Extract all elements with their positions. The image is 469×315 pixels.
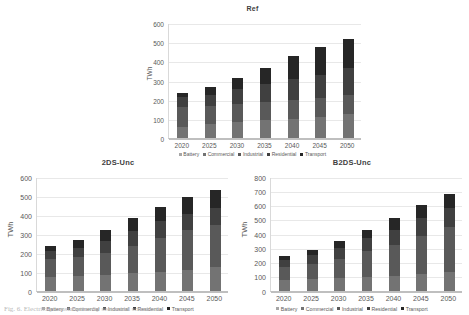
x-axis-tick: 2040 — [146, 295, 173, 302]
legend-label: Commercial — [208, 151, 235, 157]
bar-segment-residential — [315, 75, 326, 98]
y-axis-tick: 300 — [238, 245, 266, 252]
gridline — [271, 292, 462, 293]
bar-segment-residential — [260, 84, 271, 102]
y-axis-tick: 0 — [238, 288, 266, 295]
x-axis-tick: 2045 — [306, 142, 334, 149]
x-axis-tick: 2020 — [270, 295, 297, 302]
stacked-bar[interactable] — [232, 78, 243, 138]
y-axis-tick: 700 — [238, 188, 266, 195]
stacked-bar[interactable] — [307, 250, 318, 291]
stacked-bar[interactable] — [315, 47, 326, 138]
x-axis-tick: 2020 — [168, 142, 196, 149]
stacked-bar[interactable] — [182, 197, 193, 290]
y-axis-tick: 500 — [140, 40, 164, 47]
legend-label: Battery — [183, 151, 199, 157]
bar-segment-industrial — [182, 230, 193, 270]
bar-segment-residential — [128, 231, 139, 247]
legend-swatch-icon — [179, 153, 182, 156]
stacked-bar[interactable] — [155, 207, 166, 290]
y-axis-tick: 300 — [4, 231, 32, 238]
legend-item[interactable]: Residential — [267, 151, 296, 157]
bar-segment-industrial — [389, 245, 400, 275]
bar-segment-industrial — [444, 227, 455, 272]
x-axis-tick: 2050 — [333, 142, 361, 149]
bar-segment-commercial — [100, 275, 111, 291]
stacked-bar[interactable] — [343, 39, 354, 138]
y-axis-tick: 600 — [4, 174, 32, 181]
stacked-bar[interactable] — [45, 246, 56, 290]
stacked-bar[interactable] — [210, 190, 221, 291]
bar-segment-commercial — [232, 122, 243, 138]
x-axis-tick: 2035 — [251, 142, 279, 149]
bar-segment-transport — [232, 78, 243, 89]
y-axis-tick: 400 — [140, 59, 164, 66]
y-axis-tick: 500 — [238, 217, 266, 224]
bar-segment-industrial — [210, 225, 221, 267]
figure-caption: Fig. 6. Electricity consumption by secto… — [4, 305, 464, 313]
bar-segment-residential — [205, 95, 216, 107]
gridline — [37, 216, 228, 217]
chart-panel-2ds-unc: 2DS-Unc TWh 0100200300400500600202020252… — [2, 158, 234, 310]
bar-segment-commercial — [334, 278, 345, 290]
stacked-bar[interactable] — [128, 218, 139, 291]
bar-segment-residential — [416, 218, 427, 236]
legend-item[interactable]: Industrial — [238, 151, 263, 157]
y-axis-tick: 0 — [140, 136, 164, 143]
bar-segment-commercial — [155, 272, 166, 291]
stacked-bar[interactable] — [389, 218, 400, 291]
bar-segment-transport — [128, 218, 139, 231]
chart-panel-b2ds-unc: B2DS-Unc TWh 010020030040050060070080020… — [236, 158, 468, 310]
bar-segment-transport — [155, 207, 166, 220]
y-axis-tick: 200 — [4, 250, 32, 257]
x-axis-tick: 2025 — [297, 295, 324, 302]
bar-segment-industrial — [279, 267, 290, 281]
bar-segment-residential — [444, 208, 455, 227]
bar-segment-residential — [307, 255, 318, 264]
stacked-bar[interactable] — [73, 240, 84, 291]
x-axis-tick: 2040 — [278, 142, 306, 149]
bar-segment-transport — [73, 240, 84, 248]
gridline — [169, 139, 361, 140]
x-axis-tick: 2050 — [435, 295, 462, 302]
stacked-bar[interactable] — [334, 241, 345, 291]
stacked-bar[interactable] — [100, 230, 111, 290]
stacked-bar[interactable] — [444, 194, 455, 291]
plot-area-2ds-unc — [36, 178, 228, 292]
legend-label: Industrial — [243, 151, 263, 157]
legend-item[interactable]: Commercial — [203, 151, 234, 157]
bar-segment-commercial — [362, 277, 373, 291]
y-axis-tick: 100 — [140, 116, 164, 123]
legend-item[interactable]: Battery — [179, 151, 199, 157]
gridline — [169, 62, 361, 63]
bar-segment-industrial — [177, 107, 188, 127]
bar-segment-transport — [334, 241, 345, 248]
stacked-bar[interactable] — [288, 56, 299, 138]
figure-container: Ref TWh 01002003004005006002020202520302… — [0, 0, 469, 315]
stacked-bar[interactable] — [260, 67, 271, 138]
bar-segment-residential — [177, 97, 188, 107]
bar-segment-industrial — [45, 259, 56, 277]
stacked-bar[interactable] — [416, 205, 427, 290]
stacked-bar[interactable] — [279, 256, 290, 290]
stacked-bar[interactable] — [205, 87, 216, 138]
bar-segment-industrial — [128, 246, 139, 273]
bar-segment-commercial — [343, 114, 354, 138]
bar-segment-transport — [389, 218, 400, 230]
bar-segment-commercial — [315, 117, 326, 138]
x-axis-tick: 2025 — [63, 295, 90, 302]
bar-segment-residential — [210, 208, 221, 225]
bar-segment-residential — [182, 214, 193, 230]
chart-title-2ds-unc: 2DS-Unc — [2, 158, 234, 167]
x-axis-tick: 2020 — [36, 295, 63, 302]
stacked-bar[interactable] — [177, 93, 188, 138]
bar-segment-commercial — [307, 279, 318, 290]
bar-segment-residential — [389, 230, 400, 246]
bar-segment-residential — [232, 89, 243, 104]
stacked-bar[interactable] — [362, 230, 373, 291]
gridline — [37, 292, 228, 293]
bar-segment-residential — [100, 241, 111, 253]
legend-item[interactable]: Transport — [300, 151, 326, 157]
bar-segment-residential — [334, 248, 345, 259]
bar-segment-industrial — [155, 238, 166, 271]
